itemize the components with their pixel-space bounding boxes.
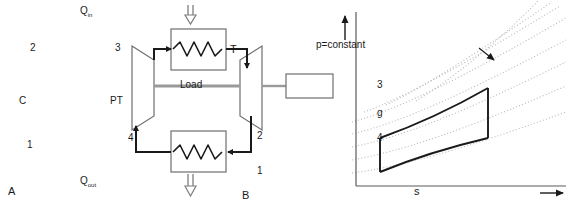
pipe-cooler-to-1 xyxy=(136,126,171,152)
state-point-3-label: 3 xyxy=(115,43,121,53)
heat-out-label: Qout xyxy=(80,176,96,188)
heat-out-arrow xyxy=(185,174,196,196)
ts-point-4-label: 4 xyxy=(377,133,383,143)
ts-point-3-label: 3 xyxy=(377,80,383,90)
load-label: Load xyxy=(180,80,202,90)
heater-coil-icon xyxy=(173,42,222,56)
panel-b-label: B xyxy=(242,190,249,201)
process-2-3 xyxy=(380,88,488,138)
state-point-2-label: 2 xyxy=(30,43,36,53)
panel-b-ts-diagram: T s p=constant 1 2 3 4 g B xyxy=(228,0,460,209)
power-turbine-label: PT xyxy=(110,96,123,106)
ts-point-2-label: 2 xyxy=(257,131,263,141)
state-point-4-label: 4 xyxy=(128,133,134,143)
ts-point-g-label: g xyxy=(377,108,383,118)
compressor-label: C xyxy=(19,96,26,106)
compressor-body xyxy=(132,46,154,130)
cycle-path xyxy=(380,88,488,172)
p-constant-annotation: p=constant xyxy=(316,40,365,50)
pipe-2-to-heater xyxy=(154,49,171,60)
panel-a-schematic: Qin Qout 2 3 1 4 C PT Load A xyxy=(0,0,228,209)
ts-point-1-label: 1 xyxy=(257,166,263,176)
panel-a-label: A xyxy=(8,186,15,197)
ts-diagram-svg xyxy=(228,0,571,209)
isobar-lines xyxy=(352,1,566,173)
t-axis-label: T xyxy=(230,44,237,55)
s-axis-label: s xyxy=(414,186,420,197)
state-point-1-label: 1 xyxy=(27,140,33,150)
heat-in-arrow xyxy=(185,5,196,24)
cooler-box xyxy=(171,131,226,172)
cooler-coil-icon xyxy=(173,145,222,159)
heat-in-label: Qin xyxy=(80,6,92,18)
process-4-1 xyxy=(380,138,488,172)
